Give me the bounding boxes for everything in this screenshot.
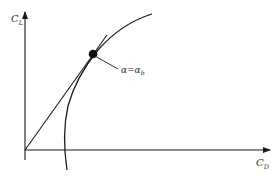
tangent-point-label: α=αb — [121, 65, 145, 76]
drag-polar-curve — [65, 14, 153, 170]
label-leader — [95, 56, 118, 69]
x-axis-label: CD — [256, 157, 270, 171]
drag-polar-diagram: CL CD α=αb — [0, 0, 280, 177]
y-axis-label: CL — [11, 13, 23, 27]
